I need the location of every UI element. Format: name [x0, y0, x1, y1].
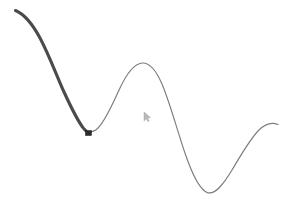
drawing-canvas[interactable]: A smooth sinusoidal curve drawn left to …: [0, 0, 288, 203]
drawing-surface[interactable]: [0, 0, 288, 203]
canvas-background: [0, 0, 288, 203]
anchor-point-handle[interactable]: [86, 131, 92, 136]
